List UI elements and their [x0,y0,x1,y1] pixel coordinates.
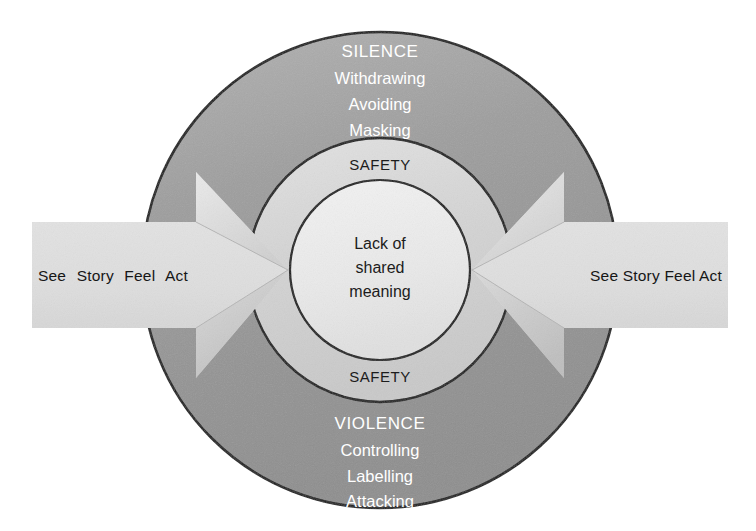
arrow-left-label: See Story Feel Act [38,267,188,284]
silence-heading: SILENCE [342,42,419,61]
safety-label-bottom: SAFETY [349,368,410,385]
safety-label-top: SAFETY [349,156,410,173]
violence-item-controlling: Controlling [341,441,420,459]
center-text: Lack of shared meaning [349,235,410,300]
arrow-right-label: See Story Feel Act [590,267,722,284]
center-line-1: Lack of [354,235,406,252]
violence-heading: VIOLENCE [335,414,426,433]
silence-item-avoiding: Avoiding [349,95,412,113]
concentric-circles-diagram: SILENCE Withdrawing Avoiding Masking VIO… [0,0,756,531]
violence-item-labelling: Labelling [347,467,413,485]
center-line-3: meaning [349,283,410,300]
silence-item-masking: Masking [349,121,410,139]
center-line-2: shared [356,259,405,276]
violence-item-attacking: Attacking [346,492,414,510]
diagram-canvas: SILENCE Withdrawing Avoiding Masking VIO… [0,0,756,531]
silence-item-withdrawing: Withdrawing [335,69,426,87]
